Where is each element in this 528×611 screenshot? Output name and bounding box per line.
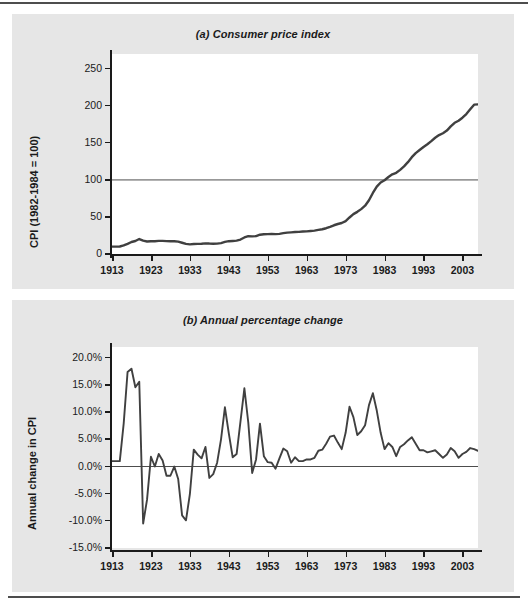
x-tick-mark	[307, 256, 309, 261]
panel-b-x-axis	[110, 550, 482, 552]
x-tick-mark	[190, 256, 192, 261]
x-tick-label: 1953	[246, 560, 290, 572]
x-tick-label: 1993	[401, 264, 445, 276]
x-tick-mark	[307, 552, 309, 557]
y-tick-label: 0	[60, 247, 102, 259]
x-tick-mark	[229, 552, 231, 557]
x-tick-label: 1943	[207, 560, 251, 572]
x-tick-label: 1923	[129, 560, 173, 572]
data-series-line	[112, 369, 478, 524]
y-tick-mark	[105, 466, 111, 468]
y-tick-label: -5.0%	[46, 487, 102, 499]
x-tick-mark	[151, 552, 153, 557]
y-tick-mark	[105, 357, 111, 359]
x-tick-label: 1923	[129, 264, 173, 276]
x-tick-label: 1933	[168, 560, 212, 572]
x-tick-label: 1953	[246, 264, 290, 276]
x-tick-label: 1943	[207, 264, 251, 276]
panel-a-y-axis-title: CPI (1982-1984 = 100)	[28, 136, 40, 248]
panel-b-title: (b) Annual percentage change	[12, 314, 514, 326]
y-tick-mark	[105, 216, 111, 218]
data-series-line	[112, 104, 478, 246]
y-tick-mark	[105, 179, 111, 181]
y-tick-label: 0.0%	[46, 460, 102, 472]
y-tick-mark	[105, 384, 111, 386]
x-tick-mark	[423, 552, 425, 557]
y-tick-mark	[105, 253, 111, 255]
figure-container: (a) Consumer price index CPI (1982-1984 …	[0, 0, 528, 611]
panel-a-plot-area	[112, 54, 478, 254]
y-tick-mark	[105, 493, 111, 495]
y-tick-mark	[105, 547, 111, 549]
y-tick-mark	[105, 411, 111, 413]
x-tick-label: 2003	[440, 264, 484, 276]
panel-a-line-chart	[112, 54, 478, 254]
x-tick-label: 1933	[168, 264, 212, 276]
panel-a-title: (a) Consumer price index	[12, 28, 514, 40]
y-tick-mark	[105, 105, 111, 107]
x-tick-label: 1983	[363, 560, 407, 572]
panel-b-y-axis-title: Annual change in CPI	[26, 417, 38, 530]
x-tick-label: 1913	[90, 264, 134, 276]
x-tick-mark	[268, 256, 270, 261]
x-tick-label: 1963	[285, 560, 329, 572]
y-tick-label: 5.0%	[46, 432, 102, 444]
x-tick-mark	[112, 552, 114, 557]
y-tick-mark	[105, 142, 111, 144]
y-tick-label: 250	[60, 62, 102, 74]
x-tick-mark	[423, 256, 425, 261]
x-tick-mark	[229, 256, 231, 261]
panel-a-x-axis	[110, 254, 482, 256]
x-tick-mark	[268, 552, 270, 557]
x-tick-label: 1973	[324, 560, 368, 572]
bottom-divider-rule	[8, 596, 520, 598]
y-tick-label: 200	[60, 99, 102, 111]
y-tick-label: 10.0%	[46, 405, 102, 417]
x-tick-label: 1963	[285, 264, 329, 276]
x-tick-mark	[151, 256, 153, 261]
y-tick-mark	[105, 68, 111, 70]
x-tick-mark	[462, 552, 464, 557]
x-tick-mark	[190, 552, 192, 557]
x-tick-label: 2003	[440, 560, 484, 572]
x-tick-mark	[385, 256, 387, 261]
y-tick-label: -10.0%	[46, 514, 102, 526]
y-tick-label: 50	[60, 210, 102, 222]
x-tick-mark	[462, 256, 464, 261]
panel-b-line-chart	[112, 347, 478, 548]
y-tick-mark	[105, 438, 111, 440]
panel-a-y-axis	[110, 50, 112, 258]
y-tick-label: -15.0%	[46, 541, 102, 553]
x-tick-mark	[346, 552, 348, 557]
x-tick-label: 1913	[90, 560, 134, 572]
x-tick-mark	[385, 552, 387, 557]
x-tick-mark	[112, 256, 114, 261]
y-tick-mark	[105, 520, 111, 522]
x-tick-label: 1973	[324, 264, 368, 276]
y-tick-label: 20.0%	[46, 351, 102, 363]
panel-b-plot-area	[112, 347, 478, 548]
y-tick-label: 15.0%	[46, 378, 102, 390]
x-tick-label: 1993	[401, 560, 445, 572]
x-tick-mark	[346, 256, 348, 261]
top-divider-rule	[0, 2, 528, 4]
y-tick-label: 100	[60, 173, 102, 185]
x-tick-label: 1983	[363, 264, 407, 276]
y-tick-label: 150	[60, 136, 102, 148]
